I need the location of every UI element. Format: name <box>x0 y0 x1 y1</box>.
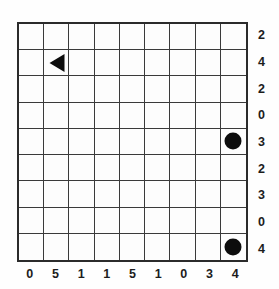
grid-cell-r6-c8[interactable] <box>196 155 221 181</box>
grid-cell-r1-c5[interactable] <box>120 24 145 50</box>
grid-cell-r7-c2[interactable] <box>44 181 69 207</box>
grid-cell-r3-c5[interactable] <box>120 76 145 102</box>
column-label-5: 5 <box>120 268 146 281</box>
grid-cell-r9-c3[interactable] <box>69 234 94 260</box>
grid-cell-r3-c2[interactable] <box>44 76 69 102</box>
grid-cell-r6-c6[interactable] <box>145 155 170 181</box>
grid-cell-r2-c9[interactable] <box>221 50 246 76</box>
triangle-left-icon[interactable] <box>50 54 65 72</box>
puzzle-grid <box>17 22 248 262</box>
grid-cell-r4-c7[interactable] <box>170 103 195 129</box>
grid-cell-r6-c9[interactable] <box>221 155 246 181</box>
grid-cell-r5-c2[interactable] <box>44 129 69 155</box>
row-label-9: 4 <box>258 242 265 255</box>
grid-cell-r6-c4[interactable] <box>95 155 120 181</box>
grid-cell-r6-c3[interactable] <box>69 155 94 181</box>
row-label-6: 2 <box>258 162 265 175</box>
grid-cell-r7-c8[interactable] <box>196 181 221 207</box>
grid-cell-r5-c7[interactable] <box>170 129 195 155</box>
grid-cell-r2-c6[interactable] <box>145 50 170 76</box>
grid-cell-r1-c2[interactable] <box>44 24 69 50</box>
grid-cell-r2-c2[interactable] <box>44 50 69 76</box>
grid-cell-r9-c6[interactable] <box>145 234 170 260</box>
grid-cell-r1-c8[interactable] <box>196 24 221 50</box>
grid-cell-r8-c7[interactable] <box>170 208 195 234</box>
grid-cell-r5-c9[interactable] <box>221 129 246 155</box>
column-label-4: 1 <box>94 268 120 281</box>
row-label-5: 3 <box>258 136 265 149</box>
grid-cell-r6-c2[interactable] <box>44 155 69 181</box>
grid-cell-r3-c9[interactable] <box>221 76 246 102</box>
grid-cell-r4-c8[interactable] <box>196 103 221 129</box>
grid-cell-r7-c1[interactable] <box>19 181 44 207</box>
grid-cell-r9-c8[interactable] <box>196 234 221 260</box>
column-label-6: 1 <box>145 268 171 281</box>
grid-cell-r5-c6[interactable] <box>145 129 170 155</box>
row-label-4: 0 <box>258 109 265 122</box>
column-label-1: 0 <box>17 268 43 281</box>
puzzle-board: 051151034 242032304 <box>0 0 279 289</box>
grid-cell-r8-c8[interactable] <box>196 208 221 234</box>
grid-cell-r9-c5[interactable] <box>120 234 145 260</box>
grid-cell-r1-c4[interactable] <box>95 24 120 50</box>
grid-cell-r5-c5[interactable] <box>120 129 145 155</box>
grid-cell-r4-c2[interactable] <box>44 103 69 129</box>
grid-cell-r4-c9[interactable] <box>221 103 246 129</box>
grid-cell-r5-c4[interactable] <box>95 129 120 155</box>
grid-cell-r4-c4[interactable] <box>95 103 120 129</box>
grid-cell-r8-c5[interactable] <box>120 208 145 234</box>
grid-cell-r3-c8[interactable] <box>196 76 221 102</box>
grid-cell-r5-c3[interactable] <box>69 129 94 155</box>
grid-cell-r1-c3[interactable] <box>69 24 94 50</box>
grid-cell-r6-c7[interactable] <box>170 155 195 181</box>
grid-cell-r8-c2[interactable] <box>44 208 69 234</box>
grid-cell-r9-c9[interactable] <box>221 234 246 260</box>
grid-cell-r4-c3[interactable] <box>69 103 94 129</box>
grid-cell-r9-c2[interactable] <box>44 234 69 260</box>
grid-cell-r9-c7[interactable] <box>170 234 195 260</box>
grid-cell-r4-c1[interactable] <box>19 103 44 129</box>
grid-cell-r2-c3[interactable] <box>69 50 94 76</box>
grid-cell-r3-c1[interactable] <box>19 76 44 102</box>
grid-cell-r5-c8[interactable] <box>196 129 221 155</box>
grid-cell-r8-c4[interactable] <box>95 208 120 234</box>
grid-cell-r9-c1[interactable] <box>19 234 44 260</box>
column-label-8: 3 <box>197 268 223 281</box>
grid-cell-r6-c5[interactable] <box>120 155 145 181</box>
circle-upper-icon[interactable] <box>225 133 242 150</box>
grid-cell-r1-c9[interactable] <box>221 24 246 50</box>
grid-cell-r2-c7[interactable] <box>170 50 195 76</box>
grid-cell-r3-c6[interactable] <box>145 76 170 102</box>
grid-cell-r4-c6[interactable] <box>145 103 170 129</box>
grid-cell-r6-c1[interactable] <box>19 155 44 181</box>
circle-lower-icon[interactable] <box>225 238 242 255</box>
row-label-2: 4 <box>258 56 265 69</box>
grid-cell-r3-c7[interactable] <box>170 76 195 102</box>
grid-cell-r7-c7[interactable] <box>170 181 195 207</box>
grid-cell-r8-c1[interactable] <box>19 208 44 234</box>
column-label-7: 0 <box>171 268 197 281</box>
grid-cell-r2-c5[interactable] <box>120 50 145 76</box>
grid-cell-r8-c3[interactable] <box>69 208 94 234</box>
grid-cell-r2-c4[interactable] <box>95 50 120 76</box>
grid-cell-r7-c3[interactable] <box>69 181 94 207</box>
grid-cell-r8-c9[interactable] <box>221 208 246 234</box>
grid-cell-r3-c3[interactable] <box>69 76 94 102</box>
row-label-1: 2 <box>258 29 265 42</box>
grid-cell-r3-c4[interactable] <box>95 76 120 102</box>
grid-cell-r9-c4[interactable] <box>95 234 120 260</box>
row-label-3: 2 <box>258 82 265 95</box>
column-label-2: 5 <box>43 268 69 281</box>
grid-cell-r2-c8[interactable] <box>196 50 221 76</box>
grid-cell-r2-c1[interactable] <box>19 50 44 76</box>
grid-cell-r7-c6[interactable] <box>145 181 170 207</box>
grid-cell-r4-c5[interactable] <box>120 103 145 129</box>
grid-cell-r7-c9[interactable] <box>221 181 246 207</box>
grid-cell-r1-c7[interactable] <box>170 24 195 50</box>
grid-cell-r8-c6[interactable] <box>145 208 170 234</box>
grid-cell-r1-c6[interactable] <box>145 24 170 50</box>
grid-cell-r7-c4[interactable] <box>95 181 120 207</box>
grid-cell-r5-c1[interactable] <box>19 129 44 155</box>
grid-cell-r1-c1[interactable] <box>19 24 44 50</box>
grid-cell-r7-c5[interactable] <box>120 181 145 207</box>
